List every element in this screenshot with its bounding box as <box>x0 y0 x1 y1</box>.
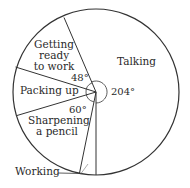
angle-label-getting: 48° <box>71 72 89 83</box>
label-packing-up: Packing up <box>20 85 79 96</box>
angle-label-talking: 204° <box>111 86 135 97</box>
label-getting-ready: Getting ready to work <box>32 39 76 72</box>
label-talking: Talking <box>117 56 156 67</box>
label-sharpening: Sharpening a pencil <box>28 115 86 137</box>
angle-arc-left <box>86 83 94 102</box>
label-getting-line3: to work <box>32 61 76 72</box>
label-sharpening-line2: a pencil <box>28 126 86 137</box>
working-pointer-tick <box>81 164 88 174</box>
label-working: Working <box>15 166 60 177</box>
working-leader-line <box>58 173 81 174</box>
